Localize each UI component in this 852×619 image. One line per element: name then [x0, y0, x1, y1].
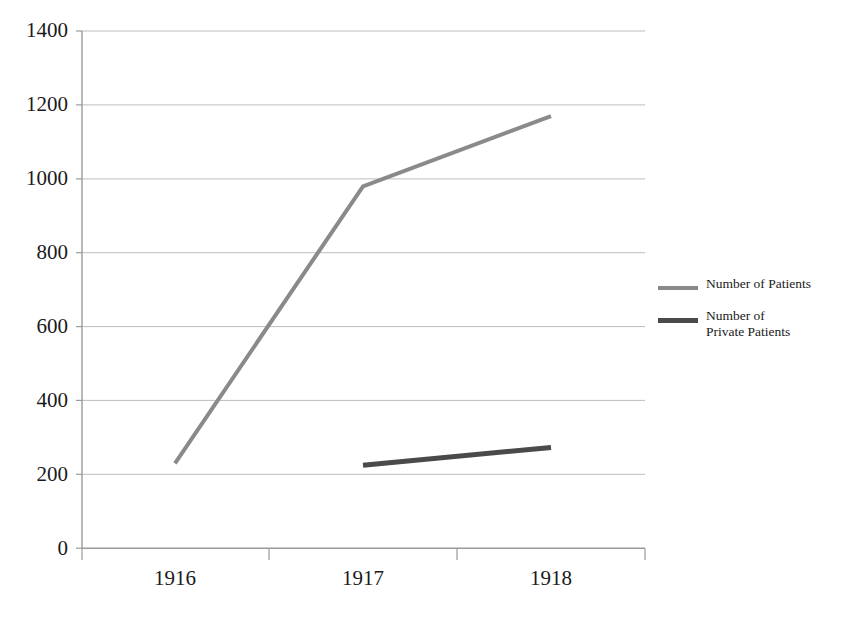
y-axis-tick-label-1000: 1000	[0, 168, 68, 189]
x-axis-tick-label-1917: 1917	[303, 568, 423, 589]
y-axis-tick-label-1400: 1400	[0, 20, 68, 41]
y-axis-tick-label-0: 0	[0, 538, 68, 559]
y-axis-ticks	[76, 31, 82, 548]
x-axis-ticks	[82, 548, 645, 560]
x-axis-tick-label-1916: 1916	[115, 568, 235, 589]
x-axis-tick-label-1918: 1918	[491, 568, 611, 589]
legend-swatch-number-of-private-patients	[658, 317, 698, 324]
y-axis-tick-label-400: 400	[0, 390, 68, 411]
chart-legend: Number of Patients Number of Private Pat…	[658, 276, 844, 356]
gridlines	[82, 31, 645, 474]
legend-label-number-of-private-patients-line1: Number of	[706, 308, 844, 324]
series-line-number-of-private-patients	[363, 447, 551, 465]
legend-label-number-of-patients: Number of Patients	[706, 276, 844, 292]
y-axis-tick-label-200: 200	[0, 464, 68, 485]
y-axis-tick-label-800: 800	[0, 242, 68, 263]
legend-entry-number-of-patients[interactable]: Number of Patients	[658, 276, 844, 292]
series-line-number-of-patients	[175, 116, 551, 463]
y-axis-tick-label-1200: 1200	[0, 94, 68, 115]
legend-swatch-number-of-patients	[658, 285, 698, 291]
y-axis-tick-label-600: 600	[0, 316, 68, 337]
legend-label-number-of-private-patients-line2: Private Patients	[706, 324, 844, 340]
legend-entry-number-of-private-patients[interactable]: Number of Private Patients	[658, 308, 844, 340]
line-chart: 1400 1200 1000 800 600 400 200 0 1916 19…	[0, 0, 852, 619]
